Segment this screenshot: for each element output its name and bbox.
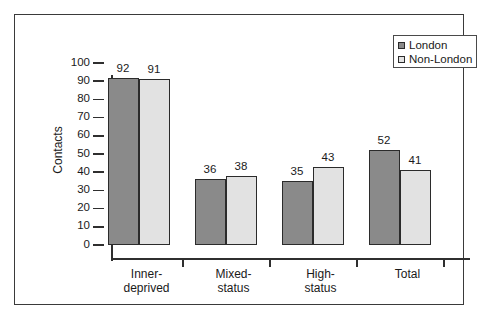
- bar-non-london-high-status[interactable]: [313, 167, 344, 245]
- category-label: Total: [364, 267, 451, 281]
- y-axis-tick-label: 100: [54, 57, 90, 69]
- bar-value-label: 91: [133, 63, 176, 75]
- y-axis-tick: [93, 117, 104, 119]
- y-axis-tick-label: 20: [54, 202, 90, 214]
- x-axis-separator-tick: [182, 258, 184, 267]
- chart-figure: London Non-London Contacts 1009080706050…: [0, 0, 481, 323]
- y-axis-tick: [93, 244, 104, 246]
- y-axis-tick-label: 50: [54, 148, 90, 160]
- bar-london-inner-deprived[interactable]: [108, 78, 139, 245]
- y-axis-tick-label-text: 90: [58, 75, 90, 87]
- bar-london-high-status[interactable]: [282, 181, 313, 245]
- legend-label-london: London: [409, 39, 447, 51]
- y-axis-tick-label-text: 70: [58, 111, 90, 123]
- bar-value-label: 52: [363, 134, 406, 146]
- y-axis-tick-label-text: 40: [58, 166, 90, 178]
- y-axis-tick: [93, 99, 104, 101]
- y-axis-tick-label: 60: [54, 129, 90, 141]
- y-axis-tick-label: 0: [54, 239, 90, 251]
- y-axis-tick-label-text: 0: [58, 239, 90, 251]
- y-axis-tick-label: 30: [54, 184, 90, 196]
- non-london-swatch-icon: [398, 56, 405, 63]
- x-axis-line: [111, 258, 470, 260]
- chart-frame: London Non-London Contacts 1009080706050…: [14, 14, 464, 305]
- y-axis-tick: [93, 208, 104, 210]
- y-axis-tick-label-text: 80: [58, 93, 90, 105]
- y-axis-tick: [93, 226, 104, 228]
- y-axis-tick: [93, 135, 104, 137]
- x-axis-separator-tick: [356, 258, 358, 267]
- y-axis-tick-label: 40: [54, 166, 90, 178]
- x-axis-separator-tick: [269, 258, 271, 267]
- y-axis-tick-label-text: 50: [58, 148, 90, 160]
- y-axis-tick-label-text: 60: [58, 129, 90, 141]
- legend-item-london[interactable]: London: [398, 38, 476, 52]
- bar-value-label: 43: [307, 151, 350, 163]
- x-axis-separator-tick: [443, 258, 445, 267]
- y-axis-tick-label-text: 30: [58, 184, 90, 196]
- bar-value-label: 38: [220, 160, 263, 172]
- y-axis-tick-label: 90: [54, 75, 90, 87]
- y-axis-tick-label: 70: [54, 111, 90, 123]
- legend-item-non-london[interactable]: Non-London: [398, 52, 476, 66]
- y-axis-tick-label: 80: [54, 93, 90, 105]
- bar-non-london-total[interactable]: [400, 170, 431, 245]
- london-swatch-icon: [398, 42, 405, 49]
- bar-non-london-mixed-status[interactable]: [226, 176, 257, 245]
- y-axis-tick: [93, 190, 104, 192]
- y-axis-tick-label-text: 20: [58, 202, 90, 214]
- y-axis-tick-label: 10: [54, 220, 90, 232]
- y-axis-tick: [93, 171, 104, 173]
- y-axis-tick: [93, 80, 104, 82]
- y-axis-tick-label-text: 10: [58, 220, 90, 232]
- chart-legend: London Non-London: [393, 35, 477, 68]
- category-label: Inner- deprived: [103, 267, 190, 295]
- bar-non-london-inner-deprived[interactable]: [139, 79, 170, 245]
- category-label: High- status: [277, 267, 364, 295]
- y-axis-tick: [93, 153, 104, 155]
- y-axis-tick-label-text: 100: [58, 57, 90, 69]
- bar-london-mixed-status[interactable]: [195, 179, 226, 245]
- bar-value-label: 41: [394, 154, 437, 166]
- category-label: Mixed- status: [190, 267, 277, 295]
- legend-label-non-london: Non-London: [409, 53, 472, 65]
